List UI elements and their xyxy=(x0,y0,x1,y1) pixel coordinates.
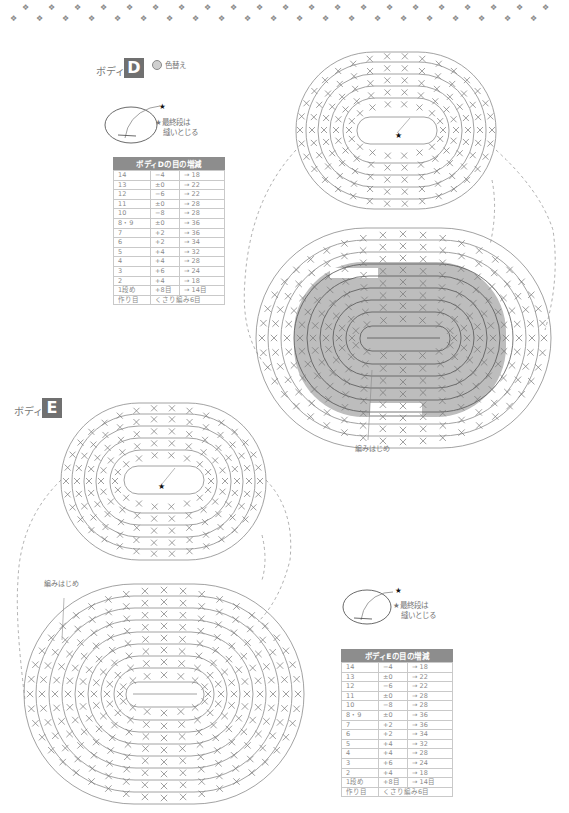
table-row: 3+6→ 24 xyxy=(342,758,453,768)
stitch-change: +6 xyxy=(151,266,180,276)
stitch-total: → 14目 xyxy=(408,778,453,788)
table-row: 7+2→ 36 xyxy=(114,228,225,238)
stitch-total: → 32 xyxy=(408,739,453,749)
table-row: 作り目くさり編み6目 xyxy=(114,295,225,305)
body-e-star-marker: ★ xyxy=(395,586,402,596)
table-row: 1段め+8目→ 14目 xyxy=(114,286,225,296)
table-row: 12−6→ 22 xyxy=(114,190,225,200)
row-label: 1段め xyxy=(114,286,151,296)
row-label: 作り目 xyxy=(114,295,151,305)
body-e-finish-sketch xyxy=(343,590,393,624)
table-row: 作り目くさり編み6目 xyxy=(342,787,453,797)
table-title: ボディDの目の増減 xyxy=(113,157,225,170)
stitch-change: +4 xyxy=(379,739,408,749)
body-e-finish-note: ★最終段は 縫いとじる xyxy=(393,601,436,621)
table-row: 4+4→ 28 xyxy=(342,749,453,759)
stitch-total: → 18 xyxy=(180,171,225,181)
stitch-total: → 18 xyxy=(408,768,453,778)
table-row: 4+4→ 28 xyxy=(114,257,225,267)
table-row: 8・9±0→ 36 xyxy=(342,710,453,720)
row-label: 14 xyxy=(342,663,379,673)
row-label: 10 xyxy=(114,209,151,219)
stitch-change: −6 xyxy=(379,682,408,692)
table-row: 6+2→ 34 xyxy=(342,730,453,740)
stitch-total: → 28 xyxy=(408,691,453,701)
star-icon: ★ xyxy=(395,131,402,140)
stitch-change: +4 xyxy=(151,247,180,257)
row-label: 6 xyxy=(114,238,151,248)
row-value: くさり編み6目 xyxy=(379,787,453,797)
table-row: 10−8→ 28 xyxy=(342,701,453,711)
stitch-total: → 28 xyxy=(180,257,225,267)
stitch-total: → 36 xyxy=(180,218,225,228)
table-title: ボディEの目の増減 xyxy=(341,649,453,662)
row-label: 5 xyxy=(114,247,151,257)
stitch-change: +8目 xyxy=(151,286,180,296)
row-label: 12 xyxy=(342,682,379,692)
table-row: 11±0→ 28 xyxy=(114,199,225,209)
stitch-change: +4 xyxy=(151,257,180,267)
stitch-change: ±0 xyxy=(379,672,408,682)
table-row: 13±0→ 22 xyxy=(114,180,225,190)
body-e-bottom-chart xyxy=(24,584,304,804)
body-e-label: ボディ xyxy=(14,403,43,418)
row-label: 12 xyxy=(114,190,151,200)
table-row: 10−8→ 28 xyxy=(114,209,225,219)
diagram-canvas: ★ ★ xyxy=(0,0,569,813)
stitch-change: +2 xyxy=(379,730,408,740)
stitch-change: ±0 xyxy=(151,180,180,190)
stitch-total: → 28 xyxy=(408,701,453,711)
table-row: 14−4→ 18 xyxy=(114,171,225,181)
stitch-change: −8 xyxy=(151,209,180,219)
row-label: 6 xyxy=(342,730,379,740)
stitch-total: → 22 xyxy=(180,190,225,200)
row-label: 7 xyxy=(114,228,151,238)
body-d-finish-note: ★最終段は 縫いとじる xyxy=(155,118,198,138)
stitch-total: → 22 xyxy=(180,180,225,190)
body-d-star-marker: ★ xyxy=(159,102,166,112)
stitch-change: ±0 xyxy=(151,199,180,209)
stitch-total: → 24 xyxy=(408,758,453,768)
table-row: 2+4→ 18 xyxy=(342,768,453,778)
stitch-change: +2 xyxy=(151,228,180,238)
stitch-change: +6 xyxy=(379,758,408,768)
row-label: 4 xyxy=(114,257,151,267)
table-row: 5+4→ 32 xyxy=(342,739,453,749)
body-d-start-label: 編みはじめ xyxy=(355,443,390,453)
row-label: 5 xyxy=(342,739,379,749)
table-row: 13±0→ 22 xyxy=(342,672,453,682)
stitch-change: +4 xyxy=(379,749,408,759)
row-label: 作り目 xyxy=(342,787,379,797)
row-label: 4 xyxy=(342,749,379,759)
stitch-change: +4 xyxy=(151,276,180,286)
stitch-change: ±0 xyxy=(379,710,408,720)
table-row: 2+4→ 18 xyxy=(114,276,225,286)
stitch-total: → 22 xyxy=(408,672,453,682)
stitch-change: −4 xyxy=(379,663,408,673)
stitch-change: +8目 xyxy=(379,778,408,788)
row-label: 2 xyxy=(114,276,151,286)
row-label: 8・9 xyxy=(114,218,151,228)
body-e-increase-table: ボディEの目の増減 14−4→ 1813±0→ 2212−6→ 2211±0→ … xyxy=(341,649,453,797)
stitch-change: +2 xyxy=(379,720,408,730)
table-row: 6+2→ 34 xyxy=(114,238,225,248)
row-value: くさり編み6目 xyxy=(151,295,225,305)
star-icon: ★ xyxy=(158,482,165,491)
row-label: 2 xyxy=(342,768,379,778)
row-label: 14 xyxy=(114,171,151,181)
body-d-finish-sketch xyxy=(105,106,160,143)
stitch-total: → 34 xyxy=(180,238,225,248)
row-label: 1段め xyxy=(342,778,379,788)
table-row: 5+4→ 32 xyxy=(114,247,225,257)
row-label: 13 xyxy=(114,180,151,190)
table-row: 11±0→ 28 xyxy=(342,691,453,701)
stitch-change: −6 xyxy=(151,190,180,200)
stitch-total: → 24 xyxy=(180,266,225,276)
table-row: 14−4→ 18 xyxy=(342,663,453,673)
stitch-change: +4 xyxy=(379,768,408,778)
stitch-total: → 28 xyxy=(180,209,225,219)
row-label: 11 xyxy=(342,691,379,701)
stitch-change: +2 xyxy=(151,238,180,248)
row-label: 10 xyxy=(342,701,379,711)
body-e-start-label: 編みはじめ xyxy=(44,578,79,588)
